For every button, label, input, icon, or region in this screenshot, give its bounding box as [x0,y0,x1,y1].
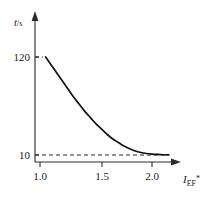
x-axis-title: IEF* [182,173,200,188]
y-axis-title: t/s [14,16,22,28]
y-axis-arrow-icon [32,11,39,21]
x-axis-title-superscript: * [196,174,200,183]
y-axis-title-unit: /s [17,19,22,28]
y-tick-label-10: 10 [19,149,31,161]
y-tick-label-120: 120 [14,51,31,63]
chart-plot-area: t/s IEF* 120 10 1.0 1.5 2.0 [0,0,213,197]
x-tick-label-2-0: 2.0 [145,170,159,182]
decay-curve [46,57,169,155]
chart-figure: t/s IEF* 120 10 1.0 1.5 2.0 [0,0,213,197]
x-tick-label-1-5: 1.5 [95,170,109,182]
x-tick-label-1-0: 1.0 [33,170,47,182]
x-axis-arrow-icon [171,159,181,166]
